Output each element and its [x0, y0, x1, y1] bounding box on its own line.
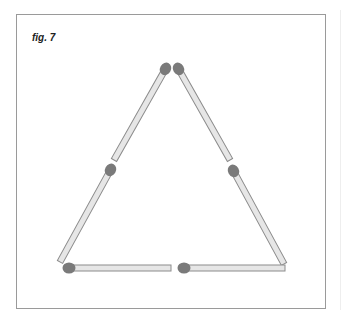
- matchstick-wood: [111, 68, 167, 161]
- matchstick-left-lower: [55, 162, 118, 265]
- matchstick-bottom-left: [63, 263, 172, 274]
- match-head-icon: [178, 263, 191, 274]
- match-head-icon: [63, 263, 76, 274]
- matchstick-wood: [231, 170, 286, 265]
- matchstick-wood: [185, 265, 285, 271]
- matchstick-left-upper: [109, 61, 173, 163]
- matchstick-right-lower: [226, 163, 289, 267]
- matchstick-right-upper: [171, 61, 235, 163]
- matchstick-bottom-right: [178, 263, 286, 274]
- matchstick-wood: [176, 68, 232, 161]
- matchstick-wood: [57, 169, 112, 263]
- matchstick-triangle-diagram: [0, 0, 344, 318]
- matchstick-wood: [70, 265, 171, 271]
